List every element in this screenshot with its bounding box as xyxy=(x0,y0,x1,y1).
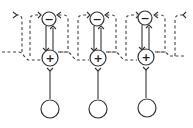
svg-text:−: − xyxy=(92,13,101,26)
unit-1: − + xyxy=(41,12,59,118)
dashed-loop-u2-right xyxy=(105,15,116,52)
svg-text:+: + xyxy=(45,52,54,65)
svg-text:−: − xyxy=(140,12,149,25)
dashed-loop-u1-left-b xyxy=(30,15,40,56)
output-node xyxy=(41,100,59,118)
output-node xyxy=(89,100,107,118)
dashed-bus-2-3 xyxy=(106,52,137,60)
dashed-loop-u3-left xyxy=(126,15,137,56)
dashed-loop-u1-right xyxy=(57,15,68,52)
dashed-loop-u3-right xyxy=(154,15,165,52)
svg-text:+: + xyxy=(141,51,150,64)
dashed-loop-u2-left xyxy=(78,15,88,56)
dashed-loop-right-partial xyxy=(175,15,183,56)
dashed-bus-1-2 xyxy=(58,52,89,60)
dashed-loop-u1-left-a xyxy=(17,15,22,52)
output-node xyxy=(138,99,156,117)
circuit-diagram: − + − + − + xyxy=(0,0,193,128)
dashed-bus-left xyxy=(2,52,41,60)
unit-2: − + xyxy=(89,12,107,118)
unit-3: − + xyxy=(138,11,156,117)
svg-text:+: + xyxy=(93,52,102,65)
dashed-bus-right xyxy=(155,52,185,56)
svg-text:−: − xyxy=(44,13,53,26)
